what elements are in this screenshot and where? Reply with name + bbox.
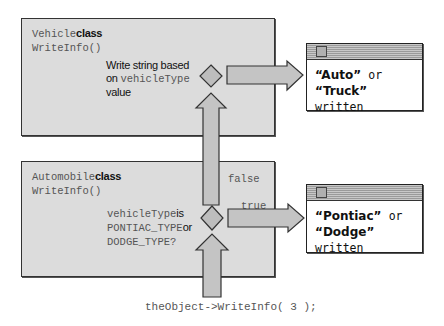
- output-window-automobile: “Pontiac” or “Dodge” written: [306, 184, 423, 253]
- close-box-icon[interactable]: [316, 46, 327, 57]
- true-branch-arrow: [228, 204, 304, 232]
- window-titlebar: [307, 185, 422, 201]
- false-branch-up-arrow: [196, 93, 226, 205]
- window-content: “Pontiac” or “Dodge” written: [307, 201, 422, 256]
- vehicle-decision-diamond: [200, 65, 222, 87]
- vehicle-output-arrow: [227, 61, 303, 90]
- window-content: “Auto” or “Truck” written: [307, 60, 422, 115]
- automobile-decision-diamond: [201, 206, 223, 230]
- call-up-arrow: [196, 234, 228, 297]
- close-box-icon[interactable]: [316, 187, 327, 198]
- window-titlebar: [307, 44, 422, 60]
- output-window-vehicle: “Auto” or “Truck” written: [306, 43, 423, 111]
- method-call-caption: theObject->WriteInfo( 3 );: [145, 301, 317, 313]
